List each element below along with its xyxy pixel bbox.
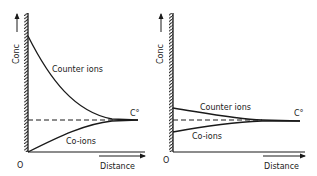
counter-ion-curve (28, 36, 138, 120)
left-panel: Conc Counter ions Co-ions C° O Distance (12, 13, 145, 171)
y-axis-label: Conc (156, 44, 165, 64)
x-axis-label: Distance (264, 162, 299, 171)
ion-distribution-diagram: Conc Counter ions Co-ions C° O Distance … (0, 0, 317, 176)
x-axis-label: Distance (100, 162, 135, 171)
origin-label: O (163, 156, 169, 165)
co-ion-curve (28, 120, 138, 152)
counter-ion-label: Counter ions (200, 103, 251, 112)
co-ion-label: Co-ions (192, 132, 222, 141)
bulk-concentration-label: C° (294, 109, 304, 118)
co-ion-curve (173, 121, 300, 132)
counter-ion-label: Counter ions (52, 65, 103, 74)
bulk-concentration-label: C° (130, 109, 140, 118)
co-ion-label: Co-ions (66, 137, 96, 146)
right-panel: Conc Counter ions Co-ions C° O Distance (156, 13, 305, 171)
origin-label: O (17, 161, 23, 170)
y-axis-label: Conc (12, 44, 21, 64)
